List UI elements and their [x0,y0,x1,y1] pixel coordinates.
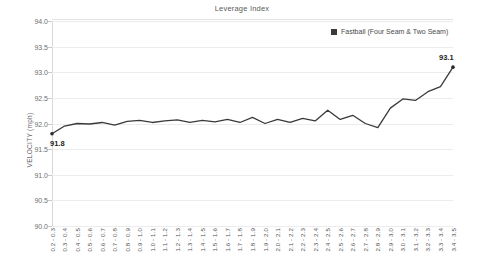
x-axis-tick-label: 1.8 - 1.9 [249,228,256,252]
data-point-first [50,132,54,136]
y-axis-tick-label: 92.5 [4,94,48,101]
x-axis-tick-label: 1.4 - 1.5 [199,228,206,252]
y-axis-tick-label: 93.0 [4,69,48,76]
y-axis-tick-label: 90.0 [4,223,48,230]
data-point-last [451,65,455,69]
y-axis-tick-label: 92.0 [4,120,48,127]
x-axis-tick-label: 0.2 - 0.3 [49,228,56,252]
y-axis-ticks: 94.093.593.092.592.091.591.090.590.0 [0,21,48,226]
x-axis-tick-label: 0.3 - 0.4 [61,228,68,252]
x-axis-tick-label: 0.7 - 0.8 [111,228,118,252]
x-axis-tick-label: 2.3 - 2.4 [312,228,319,252]
x-axis-tick-label: 1.5 - 1.6 [211,228,218,252]
series-line-fastball [52,21,453,226]
chart-container: Leverage Index Fastball (Four Seam & Two… [0,0,484,280]
x-axis-tick-label: 0.6 - 0.7 [99,228,106,252]
x-axis-tick-label: 2.4 - 2.5 [324,228,331,252]
x-axis-tick-label: 3.1 - 3.2 [412,228,419,252]
x-axis-tick-label: 0.5 - 0.6 [86,228,93,252]
x-axis-tick-label: 3.4 - 3.5 [450,228,457,252]
x-axis-tick-label: 2.2 - 2.3 [299,228,306,252]
title-divider [52,19,453,20]
x-axis-tick-label: 1.7 - 1.8 [236,228,243,252]
plot-area: 91.893.1 [52,21,453,226]
chart-title: Leverage Index [0,4,484,13]
x-axis-tick-label: 2.5 - 2.6 [337,228,344,252]
x-axis-tick-label: 2.0 - 2.1 [274,228,281,252]
x-axis-tick-label: 2.8 - 2.9 [374,228,381,252]
x-axis-tick-label: 0.9 - 1.0 [136,228,143,252]
x-axis-tick-label: 2.1 - 2.2 [287,228,294,252]
x-axis-tick-label: 1.3 - 1.4 [186,228,193,252]
y-axis-tick-label: 90.5 [4,197,48,204]
x-axis-tick-label: 1.9 - 2.0 [262,228,269,252]
x-axis-tick-label: 1.1 - 1.2 [161,228,168,252]
x-axis-tick-label: 3.0 - 3.1 [399,228,406,252]
data-point-value-label: 93.1 [439,53,454,62]
x-axis-tick-label: 0.8 - 0.9 [124,228,131,252]
x-axis-labels: 0.2 - 0.30.3 - 0.40.4 - 0.50.5 - 0.60.6 … [52,228,453,280]
x-axis-tick-label: 0.4 - 0.5 [74,228,81,252]
y-axis-tick-label: 91.0 [4,171,48,178]
x-axis-tick-label: 1.0 - 1.1 [149,228,156,252]
x-axis-tick-label: 1.6 - 1.7 [224,228,231,252]
x-axis-tick-label: 3.2 - 3.3 [424,228,431,252]
y-axis-tick-label: 91.5 [4,146,48,153]
y-axis-tick-label: 94.0 [4,18,48,25]
y-axis-tick-label: 93.5 [4,43,48,50]
x-axis-tick-label: 2.7 - 2.8 [362,228,369,252]
data-point-value-label: 91.8 [50,139,65,148]
x-axis-tick-label: 3.3 - 3.4 [437,228,444,252]
x-axis-tick-label: 1.2 - 1.3 [174,228,181,252]
x-axis-tick-label: 2.6 - 2.7 [349,228,356,252]
x-axis-tick-label: 2.9 - 3.0 [387,228,394,252]
